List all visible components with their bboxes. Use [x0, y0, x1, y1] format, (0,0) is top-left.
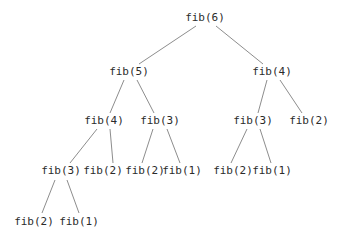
fibonacci-recursion-tree-figure: fib(6)fib(5)fib(4)fib(4)fib(3)fib(3)fib(…	[0, 0, 344, 244]
tree-edge	[260, 129, 271, 163]
tree-edge	[167, 129, 180, 163]
tree-edge	[70, 129, 97, 163]
tree-node-label: fib(5)	[109, 65, 149, 78]
tree-node-label: fib(3)	[140, 114, 180, 127]
tree-edge	[110, 80, 124, 113]
tree-node-label: fib(1)	[162, 164, 202, 177]
tree-node-label: fib(4)	[84, 114, 124, 127]
tree-edge	[137, 80, 154, 113]
tree-node-label: fib(2)	[14, 215, 54, 228]
tree-edge	[139, 26, 196, 64]
tree-node-label: fib(6)	[185, 11, 225, 24]
tree-edge	[280, 80, 302, 113]
tree-node-label: fib(4)	[252, 65, 292, 78]
tree-nodes-group: fib(6)fib(5)fib(4)fib(4)fib(3)fib(3)fib(…	[14, 11, 329, 228]
tree-node-label: fib(1)	[59, 215, 99, 228]
tree-edge	[67, 180, 79, 213]
tree-edge	[216, 26, 263, 64]
tree-node-label: fib(2)	[83, 164, 123, 177]
tree-node-label: fib(2)	[289, 114, 329, 127]
recursion-tree-canvas: fib(6)fib(5)fib(4)fib(4)fib(3)fib(3)fib(…	[0, 0, 344, 244]
tree-edge	[231, 129, 247, 163]
tree-edge	[42, 180, 55, 213]
tree-node-label: fib(3)	[233, 114, 273, 127]
tree-node-label: fib(2)	[125, 164, 165, 177]
tree-edge	[258, 80, 267, 113]
tree-node-label: fib(1)	[252, 164, 292, 177]
tree-edge	[110, 129, 113, 163]
tree-node-label: fib(3)	[41, 164, 81, 177]
tree-node-label: fib(2)	[213, 164, 253, 177]
tree-edge	[142, 129, 153, 163]
